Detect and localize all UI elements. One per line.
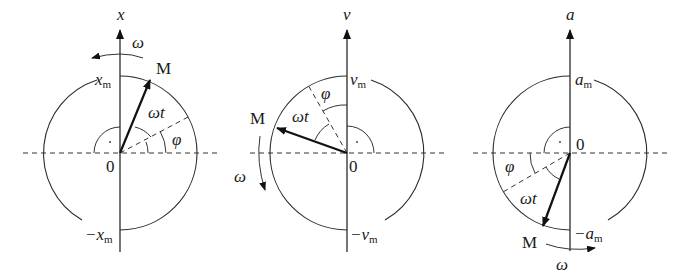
origin-label: 0 (106, 157, 115, 176)
right-angle-dot (559, 141, 561, 143)
phi-angle-arc (146, 142, 148, 153)
point-label-m: M (250, 109, 265, 128)
omega-t-angle-arc (546, 167, 559, 179)
rotation-arrow-icon (259, 136, 265, 190)
phi-label: φ (172, 130, 181, 149)
omega-t-angle-arc (135, 127, 151, 137)
min-label: −am (574, 224, 603, 244)
omega-t-label: ωt (292, 107, 310, 126)
right-angle-arc (544, 127, 570, 153)
right-angle-arc (94, 127, 120, 153)
axis-label-v: v (343, 5, 351, 24)
right-angle-dot (109, 141, 111, 143)
min-label: −xm (85, 225, 113, 245)
rotating-vector-om (277, 128, 347, 153)
origin-label: 0 (576, 135, 585, 154)
max-label: xm (94, 70, 112, 90)
phi-angle-arc-outer (160, 131, 166, 153)
max-label: vm (350, 70, 367, 90)
origin-label: 0 (349, 157, 358, 176)
phi-angle-arc (323, 105, 347, 111)
phi-label: φ (321, 84, 330, 103)
reference-circle-right-arc (594, 80, 647, 220)
omega-label: ω (556, 255, 568, 274)
phi-label: φ (505, 157, 514, 176)
right-angle-arc (347, 126, 374, 153)
phi-angle-arc (530, 153, 535, 173)
panel-velocity: v vm φ M ωt 0 ω −vm (234, 5, 445, 252)
omega-t-angle-arc (315, 124, 329, 140)
panel-displacement: x ω M xm ωt φ 0 −xm (23, 5, 218, 252)
omega-label: ω (132, 33, 144, 52)
omega-t-label: ωt (520, 189, 538, 208)
rotating-vector-om (120, 80, 150, 153)
panel-acceleration: a am 0 φ ωt −am M ω (473, 5, 668, 274)
reference-circle-right-arc (371, 80, 424, 220)
axis-label-a: a (566, 5, 575, 24)
min-label: −vm (350, 225, 378, 245)
right-angle-dot (356, 141, 358, 143)
omega-label: ω (234, 167, 246, 186)
phasor-diagram-figure: x ω M xm ωt φ 0 −xm v vm φ M ωt 0 ω −vm (0, 0, 688, 280)
reference-circle-left-arc (44, 80, 97, 220)
omega-t-label: ωt (148, 103, 166, 122)
max-label: am (575, 70, 593, 90)
point-label-m: M (522, 233, 537, 252)
rotating-vector-om (543, 153, 570, 226)
axis-label-x: x (116, 5, 125, 24)
rotation-arrow-icon (92, 54, 143, 58)
point-label-m: M (156, 59, 171, 78)
